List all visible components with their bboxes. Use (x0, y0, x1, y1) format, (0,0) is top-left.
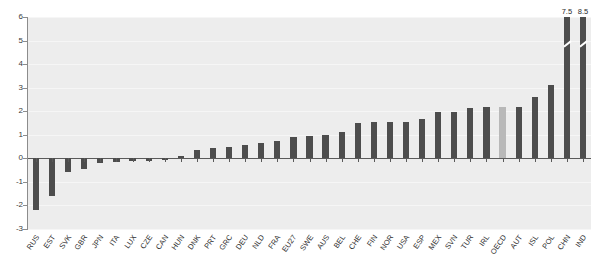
bar-tur[interactable] (467, 108, 473, 159)
x-axis-tick (133, 158, 134, 162)
bar-oecd[interactable] (499, 107, 505, 159)
bar-swe[interactable] (306, 136, 312, 158)
y-axis-tick (23, 88, 28, 89)
bar-isl[interactable] (532, 97, 538, 158)
x-axis-tick (583, 158, 584, 162)
bar-che[interactable] (355, 123, 361, 158)
bar-chn[interactable] (564, 17, 570, 158)
x-axis-tick (358, 158, 359, 162)
x-axis-tick (261, 158, 262, 162)
y-axis-tick-labels: 6543210-1-2-3 (0, 0, 23, 261)
gridline (28, 229, 591, 230)
x-axis-tick-labels: RUSESTSVKGBRJPNITALUXCZECANHUNDNKPRTGRCD… (28, 232, 591, 261)
bar-rus[interactable] (33, 158, 39, 210)
bar-eu27[interactable] (290, 137, 296, 158)
x-axis-tick (197, 158, 198, 162)
axis-break-icon (563, 41, 571, 48)
x-axis-tick (229, 158, 230, 162)
x-axis-tick (310, 158, 311, 162)
bar-dnk[interactable] (194, 150, 200, 158)
y-axis-tick (23, 17, 28, 18)
y-axis-tick-label: 4 (1, 60, 23, 68)
x-axis-tick (277, 158, 278, 162)
y-axis-tick-label: -2 (1, 201, 23, 209)
x-axis-tick (293, 158, 294, 162)
x-axis-tick (165, 158, 166, 162)
bar-svn[interactable] (451, 112, 457, 158)
x-axis-tick (551, 158, 552, 162)
y-axis-tick (23, 111, 28, 112)
x-axis-tick (326, 158, 327, 162)
bar-esp[interactable] (419, 119, 425, 158)
x-axis-tick (52, 158, 53, 162)
y-axis-tick (23, 41, 28, 42)
x-axis-tick (519, 158, 520, 162)
x-axis-tick (567, 158, 568, 162)
chart-figure: · · · · · 6543210-1-2-3 7.58.5 RUSESTSVK… (0, 0, 595, 261)
y-axis-tick (23, 64, 28, 65)
bar-mex[interactable] (435, 112, 441, 158)
x-axis-tick (486, 158, 487, 162)
bar-aut[interactable] (516, 107, 522, 159)
x-axis-tick (470, 158, 471, 162)
bar-usa[interactable] (403, 122, 409, 159)
bar-value-label-ind: 8.5 (571, 8, 595, 16)
cropped-title-strip: · · · · · (0, 0, 595, 8)
y-axis-tick (23, 205, 28, 206)
bar-fra[interactable] (274, 141, 280, 159)
y-axis-tick (23, 182, 28, 183)
x-axis-tick (245, 158, 246, 162)
bar-prt[interactable] (210, 148, 216, 159)
bar-nor[interactable] (387, 122, 393, 159)
bar-irl[interactable] (483, 107, 489, 159)
x-axis-tick (84, 158, 85, 162)
bar-nld[interactable] (258, 143, 264, 158)
y-axis-tick (23, 158, 28, 159)
x-axis-tick (181, 158, 182, 162)
y-axis-tick-label: 3 (1, 84, 23, 92)
bar-pol[interactable] (548, 85, 554, 158)
x-axis-tick (374, 158, 375, 162)
bar-fin[interactable] (371, 122, 377, 159)
bar-ind[interactable] (580, 17, 586, 158)
bar-aus[interactable] (322, 135, 328, 159)
y-axis-tick-label: 2 (1, 107, 23, 115)
x-axis-tick (68, 158, 69, 162)
x-axis-tick (406, 158, 407, 162)
y-axis-tick-label: 0 (1, 154, 23, 162)
x-axis-tick (213, 158, 214, 162)
y-axis-tick-label: 5 (1, 37, 23, 45)
y-axis-tick (23, 135, 28, 136)
axis-break-icon (579, 41, 587, 48)
bar-grc[interactable] (226, 147, 232, 159)
y-axis-tick-label: -1 (1, 178, 23, 186)
y-axis-tick-label: 1 (1, 131, 23, 139)
x-axis-tick (390, 158, 391, 162)
bar-series: 7.58.5 (28, 17, 591, 229)
bar-bel[interactable] (339, 132, 345, 158)
bar-est[interactable] (49, 158, 55, 196)
bar-deu[interactable] (242, 145, 248, 158)
x-axis-tick (454, 158, 455, 162)
x-axis-tick (438, 158, 439, 162)
x-axis-tick (503, 158, 504, 162)
y-axis-tick-label: 6 (1, 13, 23, 21)
x-axis-tick (535, 158, 536, 162)
y-axis-tick (23, 229, 28, 230)
cropped-title-text: · · · · · (110, 0, 186, 4)
x-axis-tick (36, 158, 37, 162)
y-axis-tick-label: -3 (1, 225, 23, 233)
x-axis-tick (100, 158, 101, 162)
x-axis-tick (116, 158, 117, 162)
x-axis-tick (149, 158, 150, 162)
x-axis-tick (422, 158, 423, 162)
x-axis-tick (342, 158, 343, 162)
